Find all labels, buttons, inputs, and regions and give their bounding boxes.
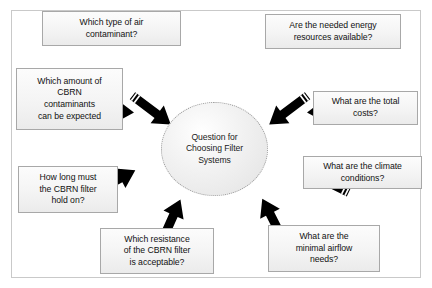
node-box-filter-resistance[interactable]: Which resistance of the CBRN filter is a… [100,228,214,274]
center-node-label: Question for Choosing Filter Systems [186,132,243,166]
node-label-total-costs: What are the total costs? [332,96,400,119]
node-label-cbrn-amount: Which amount of CBRN contaminants can be… [37,76,101,122]
node-box-minimal-airflow[interactable]: What are the minimal airflow needs? [268,225,380,272]
node-box-total-costs[interactable]: What are the total costs? [313,91,418,125]
node-box-air-contaminant[interactable]: Which type of air contaminant? [42,11,181,46]
node-box-filter-hold-on[interactable]: How long must the CBRN filter hold on? [18,166,118,213]
node-label-filter-hold-on: How long must the CBRN filter hold on? [39,172,96,207]
center-node-question-for-choosing-filter-systems[interactable]: Question for Choosing Filter Systems [161,102,268,196]
node-box-climate-conditions[interactable]: What are the climate conditions? [303,156,422,189]
node-box-energy-resources[interactable]: Are the needed energy resources availabl… [265,14,401,49]
arrow-to-energy-resources [261,82,320,135]
node-label-air-contaminant: Which type of air contaminant? [80,17,144,40]
diagram-canvas: Question for Choosing Filter Systems Whi… [0,0,432,288]
node-label-energy-resources: Are the needed energy resources availabl… [289,20,376,43]
node-label-filter-resistance: Which resistance of the CBRN filter is a… [124,234,191,269]
node-box-cbrn-amount[interactable]: Which amount of CBRN contaminants can be… [16,68,123,130]
node-label-minimal-airflow: What are the minimal airflow needs? [296,231,353,266]
node-label-climate-conditions: What are the climate conditions? [323,161,402,184]
